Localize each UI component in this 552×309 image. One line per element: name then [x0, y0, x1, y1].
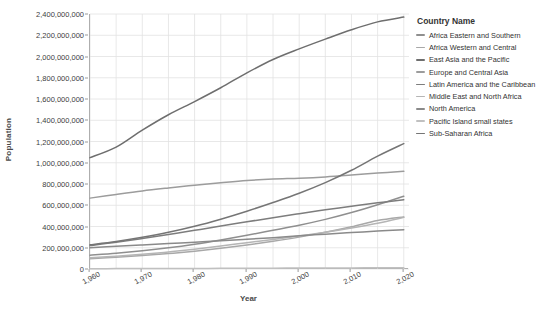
legend-line-swatch-icon [416, 133, 425, 135]
x-tick-mark [141, 269, 142, 272]
legend-item-label: Africa Eastern and Southern [429, 31, 521, 40]
x-axis-title: Year [89, 294, 408, 303]
legend-item-label: Middle East and North Africa [429, 92, 521, 101]
legend-line-swatch-icon [416, 34, 425, 36]
x-tick-label: 1,980 [185, 270, 206, 287]
legend-item[interactable]: North America [416, 103, 550, 115]
legend-line-swatch-icon [416, 84, 425, 86]
legend-line-swatch-icon [416, 96, 425, 98]
x-axis-tick-labels: 1,9601,9701,9801,9902,0002,0102,020 [89, 269, 408, 295]
y-tick-label: 1,600,000,000 [36, 95, 84, 104]
legend: Country Name Africa Eastern and Southern… [416, 16, 550, 140]
x-tick: 1,980 [184, 269, 203, 283]
legend-line-swatch-icon [416, 120, 425, 122]
x-tick: 2,000 [289, 269, 308, 283]
legend-item-list: Africa Eastern and SouthernAfrica Wester… [416, 29, 550, 140]
y-axis-title: Population [2, 0, 16, 278]
y-tick-mark [85, 77, 88, 78]
legend-item[interactable]: Middle East and North Africa [416, 90, 550, 102]
x-tick-label: 1,960 [81, 270, 102, 287]
x-axis-title-label: Year [240, 294, 257, 303]
y-axis-title-label: Population [5, 117, 14, 160]
population-line-chart: Population 0200,000,000400,000,000600,00… [0, 0, 552, 309]
legend-line-swatch-icon [416, 108, 425, 110]
y-tick-mark [85, 205, 88, 206]
y-tick-label: 400,000,000 [42, 222, 84, 231]
x-tick-label: 2,000 [290, 270, 311, 287]
y-tick-mark [85, 162, 88, 163]
legend-item[interactable]: Africa Eastern and Southern [416, 29, 550, 41]
legend-item[interactable]: Europe and Central Asia [416, 66, 550, 78]
y-tick-mark [85, 141, 88, 142]
legend-item-label: Africa Western and Central [429, 43, 516, 52]
y-tick-mark [85, 56, 88, 57]
series-lines [90, 14, 409, 269]
legend-item-label: East Asia and the Pacific [429, 55, 509, 64]
plot-area [89, 14, 408, 269]
legend-item[interactable]: East Asia and the Pacific [416, 54, 550, 66]
legend-line-swatch-icon [416, 71, 425, 73]
x-tick-label: 2,020 [394, 270, 415, 287]
legend-item[interactable]: Latin America and the Caribbean [416, 78, 550, 90]
x-tick: 1,960 [80, 269, 99, 283]
x-tick-mark [298, 269, 299, 272]
x-tick-mark [193, 269, 194, 272]
y-tick-label: 200,000,000 [42, 243, 84, 252]
legend-item[interactable]: Pacific Island small states [416, 115, 550, 127]
x-tick: 1,990 [236, 269, 255, 283]
y-tick-mark [85, 120, 88, 121]
x-tick: 2,020 [393, 269, 412, 283]
x-tick-label: 2,010 [342, 270, 363, 287]
legend-line-swatch-icon [416, 47, 425, 49]
legend-line-swatch-icon [416, 59, 425, 61]
legend-item[interactable]: Sub-Saharan Africa [416, 127, 550, 139]
y-tick-label: 2,000,000,000 [36, 52, 84, 61]
legend-item-label: Sub-Saharan Africa [429, 129, 492, 138]
legend-item-label: Latin America and the Caribbean [429, 80, 535, 89]
x-tick: 2,010 [341, 269, 360, 283]
y-axis-tick-labels: 0200,000,000400,000,000600,000,000800,00… [16, 14, 88, 269]
x-tick-mark [89, 269, 90, 272]
y-tick-label: 1,200,000,000 [36, 137, 84, 146]
legend-title: Country Name [417, 16, 550, 26]
y-tick-label: 1,000,000,000 [36, 158, 84, 167]
legend-item-label: Pacific Island small states [429, 117, 513, 126]
y-tick-mark [85, 247, 88, 248]
y-tick-label: 1,400,000,000 [36, 116, 84, 125]
y-tick-mark [85, 184, 88, 185]
y-tick-mark [85, 35, 88, 36]
x-tick-mark [350, 269, 351, 272]
y-tick-mark [85, 14, 88, 15]
y-tick-label: 1,800,000,000 [36, 73, 84, 82]
legend-item[interactable]: Africa Western and Central [416, 41, 550, 53]
legend-item-label: Europe and Central Asia [429, 68, 508, 77]
y-tick-label: 2,400,000,000 [36, 10, 84, 19]
y-tick-mark [85, 226, 88, 227]
x-tick-label: 1,970 [133, 270, 154, 287]
y-tick-label: 600,000,000 [42, 201, 84, 210]
legend-item-label: North America [429, 104, 475, 113]
x-tick-label: 1,990 [238, 270, 259, 287]
y-tick-mark [85, 99, 88, 100]
x-tick-mark [245, 269, 246, 272]
y-tick-label: 800,000,000 [42, 180, 84, 189]
x-tick-mark [402, 269, 403, 272]
y-tick-label: 2,200,000,000 [36, 31, 84, 40]
x-tick: 1,970 [132, 269, 151, 283]
